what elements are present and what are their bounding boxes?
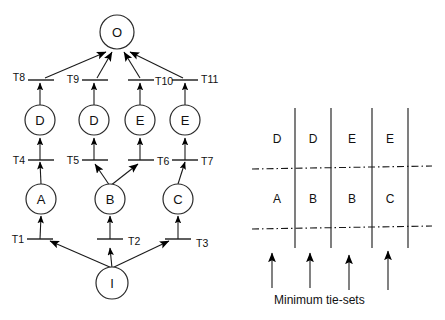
- tieset-cell-bottom-1: A: [273, 192, 281, 206]
- transition-label-T7: T7: [201, 155, 213, 167]
- edge-I-T1: [50, 241, 112, 268]
- transition-label-T2: T2: [128, 235, 140, 247]
- edge-C-T7: [178, 162, 185, 184]
- network-diagram: O D D E E A B C I T1 T2 T3 T4 T5 T6: [0, 0, 445, 320]
- edge-B-T6: [110, 164, 138, 186]
- tie-sets-panel: D D E E A B B C Minimum tie-sets: [252, 108, 432, 307]
- node-I-label: I: [110, 276, 114, 291]
- transition-label-T1: T1: [12, 233, 24, 245]
- transition-label-T6: T6: [157, 155, 169, 167]
- diagram-nodes: O D D E E A B C I: [25, 15, 200, 299]
- transition-label-T5: T5: [67, 154, 79, 166]
- tieset-cell-bottom-3: B: [348, 192, 356, 206]
- edge-A-T4: [40, 162, 41, 184]
- tieset-divider-lower: [252, 226, 432, 229]
- node-B-label: B: [106, 192, 115, 207]
- node-E1-label: E: [136, 113, 145, 128]
- tieset-cell-top-1: D: [273, 132, 282, 146]
- tieset-cell-bottom-2: B: [309, 192, 317, 206]
- transition-label-T3: T3: [196, 237, 208, 249]
- tieset-cell-top-4: E: [386, 132, 394, 146]
- transition-label-T9: T9: [67, 73, 79, 85]
- node-A-label: A: [37, 192, 46, 207]
- transition-label-T10: T10: [155, 75, 173, 87]
- tieset-cell-bottom-4: C: [386, 192, 395, 206]
- node-O-label: O: [112, 25, 122, 40]
- node-E2-label: E: [181, 113, 190, 128]
- edge-B-T5: [95, 164, 110, 186]
- transition-label-T4: T4: [13, 154, 25, 166]
- tieset-cell-top-3: E: [348, 132, 356, 146]
- figure-root: O D D E E A B C I T1 T2 T3 T4 T5 T6: [0, 0, 445, 320]
- node-D2-label: D: [89, 113, 98, 128]
- tie-sets-caption: Minimum tie-sets: [274, 293, 365, 307]
- node-D1-label: D: [35, 113, 44, 128]
- node-C-label: C: [173, 192, 182, 207]
- tieset-divider-upper: [252, 166, 432, 169]
- tieset-cell-top-2: D: [309, 132, 318, 146]
- edge-T1-A: [40, 216, 41, 239]
- transition-label-T8: T8: [13, 71, 25, 83]
- edge-T9-O: [97, 52, 112, 78]
- edge-I-T2: [110, 248, 112, 268]
- edge-I-T3: [112, 241, 169, 268]
- transition-label-T11: T11: [201, 73, 218, 85]
